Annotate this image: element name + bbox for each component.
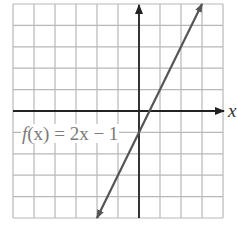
coordinate-plane [0, 0, 237, 226]
function-label: f(x) = 2x − 1 [21, 124, 119, 143]
function-expression: = 2x − 1 [49, 123, 118, 144]
function-arg: (x) [27, 123, 49, 144]
x-axis-label: x [228, 101, 236, 120]
